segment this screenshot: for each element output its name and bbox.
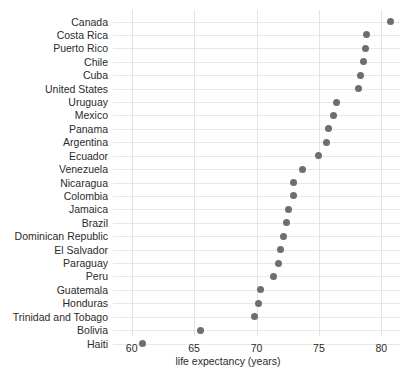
data-point[interactable] [325, 125, 332, 132]
data-point[interactable] [139, 340, 146, 347]
data-point[interactable] [255, 300, 262, 307]
category-label: Trinidad and Tobago [13, 311, 108, 322]
data-point[interactable] [251, 313, 258, 320]
x-axis-title: life expectancy (years) [0, 355, 416, 367]
category-label: Cuba [83, 70, 108, 81]
category-label: Peru [86, 271, 108, 282]
data-point[interactable] [280, 233, 287, 240]
data-point[interactable] [290, 192, 297, 199]
category-label: Chile [84, 57, 108, 68]
x-tick-label: 60 [126, 342, 138, 354]
gridline-vertical [319, 10, 320, 336]
category-label: Guatemala [57, 285, 108, 296]
category-label: Venezuela [59, 164, 108, 175]
category-label: Mexico [75, 110, 108, 121]
gridline-vertical [381, 10, 382, 336]
category-label: Colombia [64, 191, 108, 202]
category-label: Puerto Rico [53, 43, 108, 54]
data-point[interactable] [333, 99, 340, 106]
category-label: El Salvador [54, 244, 108, 255]
data-point[interactable] [257, 286, 264, 293]
data-point[interactable] [277, 246, 284, 253]
data-point[interactable] [360, 58, 367, 65]
x-axis-title-text: life expectancy (years) [175, 355, 280, 367]
data-point[interactable] [275, 260, 282, 267]
data-point[interactable] [270, 273, 277, 280]
x-tick-label: 80 [375, 342, 387, 354]
data-point[interactable] [363, 31, 370, 38]
category-label: Panama [69, 124, 108, 135]
category-label: Jamaica [69, 204, 108, 215]
data-point[interactable] [330, 112, 337, 119]
data-point[interactable] [285, 206, 292, 213]
category-label: Haiti [87, 338, 108, 349]
data-point[interactable] [362, 45, 369, 52]
category-label: Brazil [82, 218, 108, 229]
x-tick-label: 75 [313, 342, 325, 354]
gridline-vertical [194, 10, 195, 336]
category-label: Costa Rica [57, 30, 108, 41]
category-label: Dominican Republic [15, 231, 108, 242]
category-label: Canada [71, 16, 108, 27]
category-label: Bolivia [77, 325, 108, 336]
category-label: Nicaragua [60, 177, 108, 188]
data-point[interactable] [283, 219, 290, 226]
category-label: Ecuador [69, 150, 108, 161]
data-point[interactable] [197, 327, 204, 334]
plot-area [113, 10, 400, 336]
category-label: Paraguay [63, 258, 108, 269]
x-tick-label: 65 [188, 342, 200, 354]
category-label: Honduras [62, 298, 108, 309]
data-point[interactable] [387, 18, 394, 25]
data-point[interactable] [323, 139, 330, 146]
data-point[interactable] [315, 152, 322, 159]
category-label: Uruguay [68, 97, 108, 108]
x-tick-label: 70 [251, 342, 263, 354]
data-point[interactable] [355, 85, 362, 92]
category-label: Argentina [63, 137, 108, 148]
data-point[interactable] [299, 166, 306, 173]
category-label: United States [45, 83, 108, 94]
dot-plot-chart: CanadaCosta RicaPuerto RicoChileCubaUnit… [0, 0, 416, 377]
data-point[interactable] [290, 179, 297, 186]
data-point[interactable] [357, 72, 364, 79]
gridline-vertical [132, 10, 133, 336]
